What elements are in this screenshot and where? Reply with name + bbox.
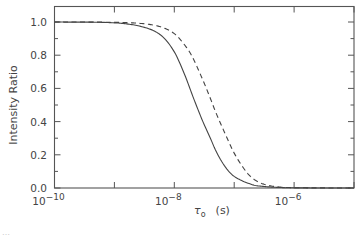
y-tick-label: 0.2 bbox=[30, 149, 47, 161]
data-series bbox=[55, 22, 355, 188]
tau-subscript: o bbox=[201, 210, 206, 219]
caption-fragment: … bbox=[2, 228, 10, 236]
y-tick-label: 0.4 bbox=[30, 116, 47, 128]
x-unit: (s) bbox=[216, 204, 230, 217]
x-tick-labels: 10−1010−810−6 bbox=[32, 192, 301, 207]
solid-curve bbox=[55, 22, 355, 188]
dashed-curve bbox=[55, 22, 355, 188]
x-axis-label: τo(s) bbox=[194, 204, 230, 219]
plot-frame bbox=[55, 7, 355, 189]
x-tick-label: 10−6 bbox=[275, 192, 302, 207]
axis-ticks bbox=[55, 7, 355, 189]
x-tick-label: 10−10 bbox=[32, 192, 65, 207]
y-axis-label: Intensity Ratio bbox=[7, 65, 20, 145]
y-tick-label: 0.6 bbox=[30, 82, 47, 94]
intensity-ratio-chart: 0.00.20.40.60.81.0 10−1010−810−6 Intensi… bbox=[0, 0, 359, 236]
y-tick-label: 0.0 bbox=[30, 182, 47, 194]
y-tick-label: 1.0 bbox=[30, 16, 47, 28]
y-tick-label: 0.8 bbox=[30, 49, 47, 61]
y-tick-labels: 0.00.20.40.60.81.0 bbox=[30, 16, 47, 194]
x-tick-label: 10−8 bbox=[155, 192, 182, 207]
